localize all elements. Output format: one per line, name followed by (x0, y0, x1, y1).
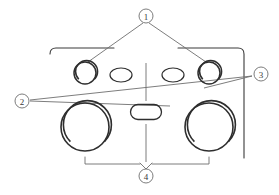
upper-left-round-dial[interactable] (74, 60, 98, 84)
center-pill-button[interactable] (131, 105, 162, 120)
callout-4-label: 4 (144, 172, 149, 182)
diagram-canvas: 1 2 3 4 (0, 0, 279, 195)
lower-control-row (61, 101, 235, 151)
lower-left-large-dial[interactable] (61, 101, 111, 151)
lower-right-large-dial[interactable] (185, 101, 235, 151)
callout-4[interactable]: 4 (139, 169, 153, 183)
callout-2[interactable]: 2 (15, 94, 29, 108)
upper-right-oval-button[interactable] (162, 68, 184, 82)
callout-1[interactable]: 1 (139, 9, 153, 23)
upper-left-oval-button[interactable] (110, 68, 132, 82)
callout-markers: 1 2 3 4 (15, 9, 268, 183)
callout-1-leader (88, 23, 206, 62)
upper-control-row (74, 60, 222, 84)
callout-3-label: 3 (259, 70, 264, 80)
callout-3-leader (204, 76, 252, 88)
callout-4-bracket (85, 157, 209, 169)
technical-drawing: 1 2 3 4 (0, 0, 279, 195)
callout-2-label: 2 (20, 97, 25, 107)
callout-1-label: 1 (144, 12, 149, 22)
callout-3[interactable]: 3 (254, 67, 268, 81)
